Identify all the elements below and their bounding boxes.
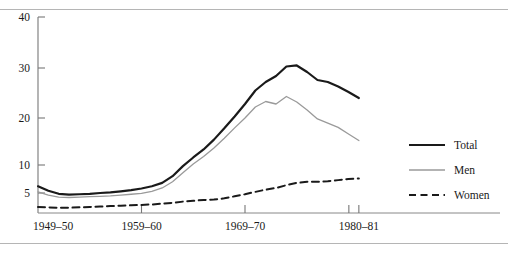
x-axis-tick-label: 1980–81 bbox=[339, 220, 380, 232]
data-series-group bbox=[38, 65, 359, 207]
chart-figure: 510203040 1949–501959–601969–701980–81 T… bbox=[0, 0, 508, 253]
series-line-total bbox=[38, 65, 359, 194]
y-axis-tick-label: 30 bbox=[19, 62, 31, 74]
x-axis-tick-label: 1969–70 bbox=[225, 220, 266, 232]
y-axis-ticks: 510203040 bbox=[19, 11, 46, 199]
legend-label-total: Total bbox=[454, 139, 477, 151]
x-axis-tick-label: 1949–50 bbox=[33, 220, 74, 232]
series-line-men bbox=[38, 97, 359, 198]
chart-legend: TotalMenWomen bbox=[409, 139, 490, 201]
y-axis-tick-label: 5 bbox=[24, 187, 30, 199]
y-axis-tick-label: 40 bbox=[19, 11, 31, 23]
axes-group bbox=[38, 17, 500, 213]
line-chart-canvas: 510203040 1949–501959–601969–701980–81 T… bbox=[0, 0, 508, 253]
y-axis-tick-label: 20 bbox=[19, 112, 31, 124]
legend-label-women: Women bbox=[454, 189, 490, 201]
legend-label-men: Men bbox=[454, 164, 475, 176]
x-axis-ticks: 1949–501959–601969–701980–81 bbox=[33, 205, 379, 232]
x-axis-tick-label: 1959–60 bbox=[121, 220, 162, 232]
y-axis-tick-label: 10 bbox=[19, 159, 31, 171]
